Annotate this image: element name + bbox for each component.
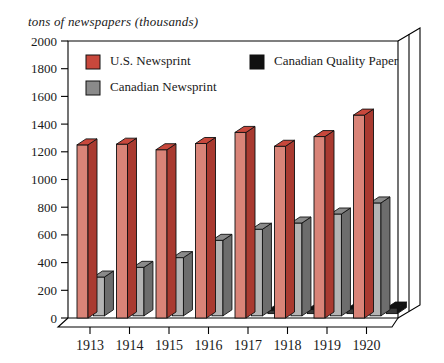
bar-front-face xyxy=(275,146,286,318)
newsprint-bar-chart: tons of newspapers (thousands) 020040060… xyxy=(0,0,444,363)
bar-side-face xyxy=(104,271,113,316)
bar-side-face xyxy=(167,144,176,318)
bar-front-face xyxy=(156,150,167,318)
legend-swatch xyxy=(86,81,100,95)
bar-side-face xyxy=(286,140,295,318)
bar-side-face xyxy=(183,252,192,316)
bar-side-face xyxy=(246,126,255,318)
bar-1913-series-0 xyxy=(77,139,97,318)
y-axis: 0200400600800100012001400160018002000 xyxy=(31,34,68,326)
y-tick-label: 2000 xyxy=(31,34,57,49)
bar-1914-series-0 xyxy=(117,138,137,318)
x-tick-label: 1913 xyxy=(76,338,104,353)
x-tick-label: 1916 xyxy=(195,338,223,353)
x-tick-label: 1918 xyxy=(274,338,302,353)
bar-side-face xyxy=(381,197,390,316)
y-tick-label: 200 xyxy=(38,283,58,298)
legend-label: U.S. Newsprint xyxy=(110,53,191,68)
bar-1917-series-0 xyxy=(235,126,255,318)
y-tick-label: 1400 xyxy=(31,117,57,132)
bar-1919-series-0 xyxy=(314,131,334,318)
x-tick-label: 1917 xyxy=(234,338,262,353)
bar-group-1915 xyxy=(156,144,192,318)
y-tick-label: 0 xyxy=(51,311,58,326)
bar-1916-series-0 xyxy=(196,137,216,318)
bar-side-face xyxy=(365,109,374,318)
y-tick-label: 1800 xyxy=(31,61,57,76)
x-tick-label: 1915 xyxy=(155,338,183,353)
legend-label: Canadian Quality Paper xyxy=(274,53,399,68)
bar-side-face xyxy=(262,223,271,316)
bar-1918-series-0 xyxy=(275,140,295,318)
bar-side-face xyxy=(128,138,137,318)
y-tick-label: 1200 xyxy=(31,144,57,159)
bar-1920-series-0 xyxy=(354,109,374,318)
bar-group-container xyxy=(77,109,406,318)
bar-side-face xyxy=(144,261,153,315)
y-tick-label: 400 xyxy=(38,255,58,270)
bar-front-face xyxy=(77,145,88,318)
bar-side-face xyxy=(223,234,232,315)
y-tick-label: 800 xyxy=(38,200,58,215)
legend-swatch xyxy=(250,55,264,69)
chart-plot-area: 0200400600800100012001400160018002000 19… xyxy=(0,0,444,363)
y-tick-label: 1600 xyxy=(31,89,57,104)
bar-front-face xyxy=(235,132,246,318)
legend-item-2[interactable]: Canadian Quality Paper xyxy=(250,53,399,69)
bar-side-face xyxy=(341,208,350,316)
bar-group-1916 xyxy=(196,137,232,318)
bar-side-face xyxy=(325,131,334,318)
y-tick-label: 600 xyxy=(38,227,58,242)
bar-front-face xyxy=(314,137,325,318)
x-tick-label: 1919 xyxy=(313,338,341,353)
bar-front-face xyxy=(117,144,128,318)
bar-front-face xyxy=(196,143,207,318)
bar-group-1913 xyxy=(77,139,113,318)
bar-front-face xyxy=(354,115,365,318)
legend-item-0[interactable]: U.S. Newsprint xyxy=(86,53,191,69)
bar-side-face xyxy=(88,139,97,318)
chart-legend: U.S. NewsprintCanadian NewsprintCanadian… xyxy=(86,53,399,95)
x-tick-label: 1914 xyxy=(116,338,144,353)
y-tick-label: 1000 xyxy=(31,172,57,187)
x-tick-label: 1920 xyxy=(353,338,381,353)
bar-side-face xyxy=(302,217,311,316)
legend-item-1[interactable]: Canadian Newsprint xyxy=(86,79,217,95)
bar-side-face xyxy=(207,137,216,318)
legend-label: Canadian Newsprint xyxy=(110,79,217,94)
bar-group-1914 xyxy=(117,138,153,318)
x-axis: 19131914191519161917191819191920 xyxy=(76,327,381,353)
legend-swatch xyxy=(86,55,100,69)
bar-1915-series-0 xyxy=(156,144,176,318)
